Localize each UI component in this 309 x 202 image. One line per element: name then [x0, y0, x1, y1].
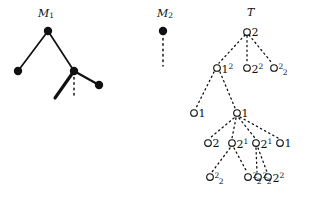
t-node-l1b-label: 22: [252, 63, 264, 75]
t-edge-root-l1a: [219, 35, 245, 63]
m1-edge-thick-down: [55, 71, 74, 98]
t-node-l4b-label: 22: [253, 172, 262, 186]
t-node-l3a-label: 2: [213, 138, 220, 149]
m1-edge-right-leaf: [74, 71, 99, 85]
t-edge-root-l1c: [249, 35, 272, 63]
panel-label-M1: M1: [38, 8, 54, 20]
t-edge-l3b-l4b: [234, 148, 247, 172]
t-node-root: [244, 29, 251, 36]
t-edge-l2b-l3b: [232, 118, 236, 138]
t-node-l2a-label: 1: [199, 108, 206, 119]
t-node-l2b-label: 1: [242, 108, 249, 119]
t-node-l3c-label: 21: [261, 138, 273, 150]
t-node-l3b-label: 21: [237, 138, 249, 150]
t-edge-l3c-l4d: [258, 148, 267, 172]
t-node-l2a: [191, 110, 198, 117]
t-edge-l2b-l3d: [240, 117, 278, 138]
t-node-l1b: [244, 65, 251, 72]
t-node-l1c-label: 22: [279, 63, 288, 77]
m1-inner-right: [70, 67, 78, 75]
t-node-l1a: [214, 65, 221, 72]
t-node-l4a: [207, 174, 214, 181]
t-node-l3c: [253, 140, 260, 147]
t-node-l4b: [245, 174, 252, 181]
m1-edge-root-left: [18, 31, 48, 71]
t-node-l3d: [277, 140, 284, 147]
t-node-l3a: [205, 140, 212, 147]
figure-canvas: M1M221222221122121122222222T: [0, 0, 309, 202]
t-node-l3b: [229, 140, 236, 147]
m1-edge-root-right: [48, 31, 74, 71]
t-edge-l2b-l3c: [239, 118, 255, 138]
t-edge-l2b-l3a: [210, 118, 234, 138]
t-node-l4a-label: 22: [215, 172, 224, 186]
t-node-l2b: [234, 110, 241, 117]
panel-label-T: T: [247, 7, 254, 18]
t-node-l4d-label: 22: [273, 172, 285, 184]
t-edge-l3c-l4c: [256, 148, 257, 172]
m1-leaf-right: [95, 81, 103, 89]
t-node-l1a-label: 12: [222, 63, 234, 75]
m1-leaf-left: [14, 67, 22, 75]
t-node-l1c: [271, 65, 278, 72]
t-node-l4c-label: 22: [263, 172, 272, 186]
m1-root: [44, 27, 52, 35]
panel-label-M2: M2: [157, 8, 173, 20]
t-edge-l1a-l2a: [196, 72, 214, 108]
t-edge-l1a-l2b: [220, 72, 235, 108]
m2-root: [159, 27, 167, 35]
t-edge-l3b-l4a: [212, 148, 230, 172]
t-node-l3d-label: 1: [285, 138, 292, 149]
t-node-root-label: 2: [252, 27, 259, 38]
